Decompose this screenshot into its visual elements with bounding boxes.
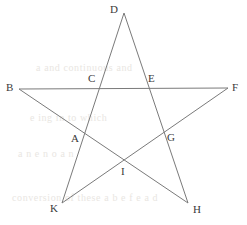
pentagram-svg: [0, 0, 247, 225]
vertex-label-K: K: [50, 203, 58, 214]
vertex-label-B: B: [6, 82, 13, 93]
vertex-label-A: A: [71, 133, 79, 144]
vertex-label-F: F: [232, 82, 238, 93]
vertex-label-E: E: [148, 73, 155, 84]
vertex-label-I: I: [121, 166, 125, 177]
vertex-label-H: H: [193, 204, 201, 215]
pentagram-figure: a and continuous and e ing in to which a…: [0, 0, 247, 225]
segment-D-K: [62, 13, 124, 203]
segment-B-H: [19, 89, 188, 203]
vertex-label-G: G: [167, 132, 175, 143]
segment-F-K: [62, 88, 228, 203]
segment-B-F: [19, 88, 228, 89]
segment-D-H: [124, 13, 188, 203]
vertex-label-D: D: [110, 4, 118, 15]
vertex-label-C: C: [88, 73, 95, 84]
